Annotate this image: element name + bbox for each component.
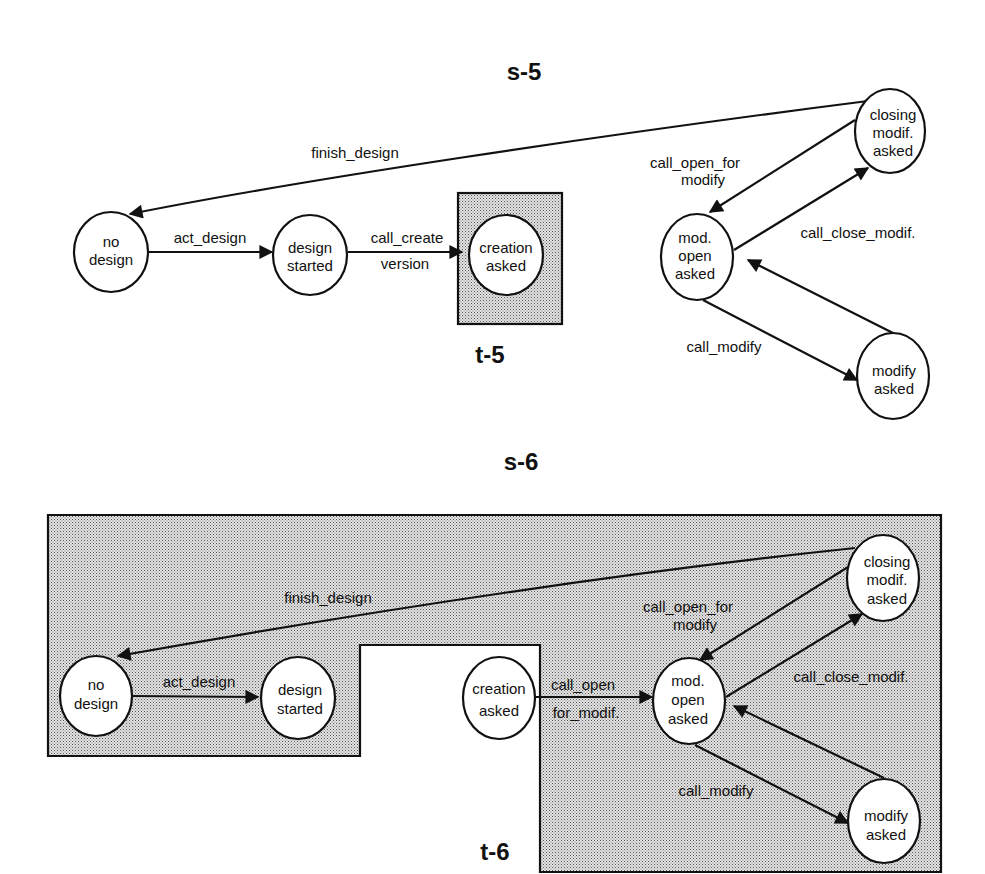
svg-text:started: started xyxy=(277,700,323,717)
svg-text:creation: creation xyxy=(472,680,525,697)
edge-label-finish-design-s6: finish_design xyxy=(284,589,372,606)
svg-text:mod.: mod. xyxy=(671,672,704,689)
svg-text:asked: asked xyxy=(867,590,907,607)
state-no-design-s6: no design xyxy=(60,656,132,736)
svg-text:closing: closing xyxy=(870,106,917,123)
svg-text:open: open xyxy=(678,247,711,264)
svg-text:modif.: modif. xyxy=(873,124,914,141)
state-modify-asked-s6: modify asked xyxy=(848,779,920,863)
svg-text:asked: asked xyxy=(873,142,913,159)
edge-label-call-close-modif-s5: call_close_modif. xyxy=(800,224,915,241)
edge-label-call-open-for-s5: call_open_for xyxy=(650,154,740,171)
edge-label-call-open-for-s6: call_open_for xyxy=(643,598,733,615)
svg-text:asked: asked xyxy=(874,380,914,397)
edge-label-modify-s5: modify xyxy=(681,171,726,188)
diagram-title-s6: s-6 xyxy=(504,448,539,475)
svg-text:modif.: modif. xyxy=(867,571,908,588)
svg-text:no: no xyxy=(88,676,105,693)
state-diagram-canvas: s-5 t-5 finish_design act_design call_cr… xyxy=(0,0,985,874)
edge-label-for-modif-s6: for_modif. xyxy=(553,704,620,721)
state-mod-open-asked-s5: mod. open asked xyxy=(661,214,733,300)
state-creation-asked-s6: creation asked xyxy=(463,657,535,739)
state-design-started-s5: design started xyxy=(273,215,347,295)
state-modify-asked-s5: modify asked xyxy=(857,333,929,419)
state-closing-modif-asked-s6: closing modif. asked xyxy=(847,535,919,621)
svg-text:creation: creation xyxy=(479,239,532,256)
svg-text:asked: asked xyxy=(486,257,526,274)
svg-text:asked: asked xyxy=(479,702,519,719)
edge-label-call-modify-s6: call_modify xyxy=(678,782,754,799)
edge-label-finish-design-s5: finish_design xyxy=(311,144,399,161)
svg-text:modify: modify xyxy=(864,807,909,824)
svg-text:no: no xyxy=(103,233,120,250)
edge-label-act-design-s5: act_design xyxy=(174,229,247,246)
svg-text:open: open xyxy=(671,691,704,708)
svg-text:asked: asked xyxy=(675,265,715,282)
edge-label-call-create-s5: call_create xyxy=(371,229,444,246)
state-closing-modif-asked-s5: closing modif. asked xyxy=(855,89,925,173)
edge-label-modify-s6: modify xyxy=(673,616,718,633)
diagram-s6: s-6 t-6 finish_design act_design call_op… xyxy=(48,448,941,872)
svg-text:design: design xyxy=(74,695,118,712)
edge-act-design-s6 xyxy=(132,696,258,697)
svg-text:modify: modify xyxy=(872,362,917,379)
svg-text:design: design xyxy=(278,681,322,698)
region-label-t6: t-6 xyxy=(480,838,509,865)
svg-text:started: started xyxy=(287,257,333,274)
svg-text:asked: asked xyxy=(668,710,708,727)
svg-text:asked: asked xyxy=(866,826,906,843)
edge-label-call-open-s6: call_open xyxy=(551,676,615,693)
edge-label-call-close-modif-s6: call_close_modif. xyxy=(793,668,908,685)
svg-text:closing: closing xyxy=(864,553,911,570)
edge-label-act-design-s6: act_design xyxy=(163,673,236,690)
state-creation-asked-s5: creation asked xyxy=(469,215,543,295)
edge-label-version-s5: version xyxy=(381,255,429,272)
svg-text:mod.: mod. xyxy=(678,229,711,246)
state-mod-open-asked-s6: mod. open asked xyxy=(653,658,725,744)
svg-text:design: design xyxy=(89,251,133,268)
svg-text:design: design xyxy=(288,239,332,256)
edge-modify-return-s5 xyxy=(748,260,893,333)
diagram-s5: s-5 t-5 finish_design act_design call_cr… xyxy=(74,58,929,419)
state-design-started-s6: design started xyxy=(261,657,335,739)
state-no-design-s5: no design xyxy=(74,212,148,292)
region-label-t5: t-5 xyxy=(475,341,504,368)
edge-label-call-modify-s5: call_modify xyxy=(686,338,762,355)
diagram-title-s5: s-5 xyxy=(507,58,542,85)
